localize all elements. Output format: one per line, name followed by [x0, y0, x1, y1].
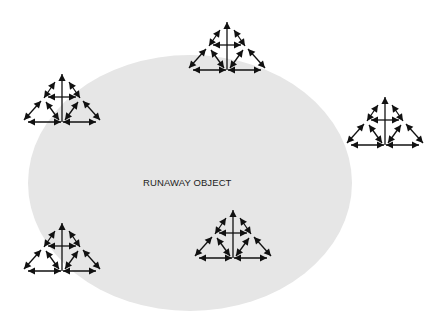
- arrow-triangle-icon-bottom-center: [191, 208, 275, 262]
- arrow-triangle-icon-left: [20, 72, 104, 126]
- runaway-object-label: RUNAWAY OBJECT: [143, 177, 232, 188]
- arrow-triangle-icon-right: [343, 95, 427, 149]
- diagram-canvas: RUNAWAY OBJECT: [0, 0, 445, 321]
- arrow-triangle-icon-bottom-left: [20, 221, 104, 275]
- arrow-triangle-icon-top: [185, 20, 269, 74]
